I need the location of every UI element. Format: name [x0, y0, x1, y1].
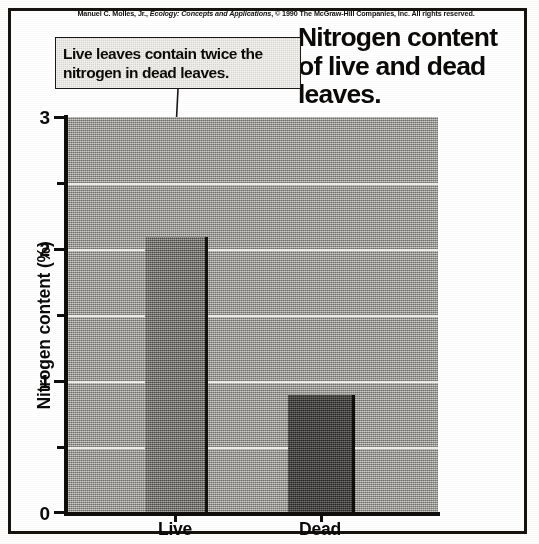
figure-root: Manuel C. Molles, Jr., Ecology: Concepts… [0, 0, 539, 544]
copyright-credit-line: Manuel C. Molles, Jr., Ecology: Concepts… [32, 9, 520, 18]
annotation-callout-box: Live leaves contain twice the nitrogen i… [55, 37, 301, 89]
gridline-1-5 [68, 315, 438, 317]
bar-live[interactable] [145, 237, 208, 514]
y-axis-title: Nitrogen content (%) [34, 176, 55, 476]
bar-dead[interactable] [288, 395, 355, 514]
gridline-0-5 [68, 447, 438, 449]
plot-area [68, 117, 438, 514]
x-axis-line [64, 512, 440, 516]
y-tick-mark-0 [54, 511, 65, 514]
gridline-1-0 [68, 381, 438, 383]
figure-title: Nitrogen content of live and dead leaves… [298, 23, 526, 109]
y-tick-mark-3 [54, 116, 65, 119]
gridline-2-5 [68, 183, 438, 185]
y-tick-mark-1-5 [57, 314, 65, 317]
annotation-callout-text: Live leaves contain twice the nitrogen i… [56, 44, 300, 82]
credit-author: Manuel C. Molles, Jr., [77, 9, 149, 18]
y-tick-mark-0-5 [57, 446, 65, 449]
gridline-2-0 [68, 249, 438, 251]
y-tick-mark-2 [54, 248, 65, 251]
x-tick-label-dead: Dead [265, 519, 375, 540]
y-tick-mark-1 [54, 380, 65, 383]
y-tick-label-3: 3 [20, 108, 50, 127]
y-tick-mark-2-5 [57, 182, 65, 185]
credit-rights: , © 1990 The McGraw-Hill Companies, Inc.… [271, 9, 474, 18]
credit-work-title: Ecology: Concepts and Applications [150, 9, 271, 18]
y-tick-label-0: 0 [20, 504, 50, 523]
x-tick-label-live: Live [120, 519, 230, 540]
